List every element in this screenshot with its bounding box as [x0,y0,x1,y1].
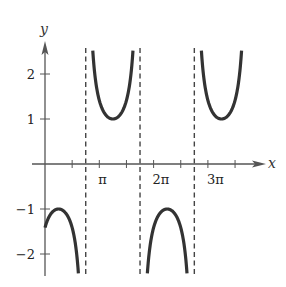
curve-branch [147,209,187,273]
curve-branch [201,51,241,119]
curve-branches [45,51,242,274]
y-tick-label: 2 [27,67,35,82]
y-tick-label: −2 [16,247,35,262]
curve-branch [45,209,78,273]
x-tick-label: 2π [153,172,170,187]
y-tick-label: −1 [16,202,35,217]
y-tick-label: 1 [27,112,35,127]
y-axis-label: y [39,21,49,37]
x-tick-label: π [98,172,107,187]
curve-branch [93,51,133,119]
x-axis-label: x [268,155,276,171]
csc-graph: π2π3π 21−1−2 x y [0,0,286,287]
axes: π2π3π 21−1−2 [16,41,266,276]
vertical-asymptotes [86,48,195,276]
x-tick-label: 3π [207,172,224,187]
